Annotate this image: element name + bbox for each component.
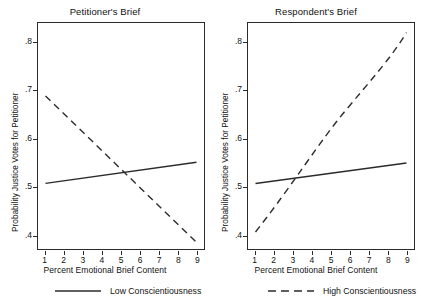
x-tick-label: 4 (95, 255, 109, 265)
legend-label: Low Conscientiousness (110, 286, 201, 296)
y-axis-title: Probability Justice Votes for Petitioner (221, 93, 230, 232)
x-tick-label: 6 (343, 255, 357, 265)
x-tick-label: 7 (362, 255, 376, 265)
plot-lines (248, 23, 414, 249)
series-line-high-conscientiousness (256, 33, 407, 232)
y-axis-title: Probability Justice Votes for Petitioner (11, 93, 20, 232)
x-tick-label: 3 (76, 255, 90, 265)
x-axis-title: Percent Emotional Brief Content (211, 265, 421, 275)
x-tick-label: 5 (324, 255, 338, 265)
y-tick-label: .8 (218, 37, 242, 46)
y-tick-label: .4 (8, 231, 32, 240)
x-tick-label: 1 (248, 255, 262, 265)
legend-key-solid-line (55, 286, 101, 296)
legend-entry-low-conscientiousness: Low Conscientiousness (55, 281, 201, 301)
x-tick-label: 7 (152, 255, 166, 265)
legend-entry-high-conscientiousness: High Conscientiousness (268, 281, 416, 301)
x-tick-label: 2 (267, 255, 281, 265)
series-line-high-conscientiousness (46, 96, 197, 242)
x-tick-label: 6 (133, 255, 147, 265)
y-tick-label: .4 (218, 231, 242, 240)
y-tick-label: .8 (8, 37, 32, 46)
x-tick-label: 1 (38, 255, 52, 265)
x-tick-label: 3 (286, 255, 300, 265)
x-tick-label: 4 (305, 255, 319, 265)
panel-respondents-brief: Respondent's Brief .8 .7 .6 .5 .4 Probab… (211, 0, 421, 275)
x-tick-label: 9 (190, 255, 204, 265)
series-line-low-conscientiousness (256, 163, 407, 184)
panel-petitioners-brief: Petitioner's Brief .8 .7 .6 .5 .4 Probab… (0, 0, 210, 275)
panel-title: Petitioner's Brief (0, 6, 210, 18)
figure-two-panel-chart: Petitioner's Brief .8 .7 .6 .5 .4 Probab… (0, 0, 421, 307)
series-line-low-conscientiousness (46, 162, 197, 183)
plot-lines (38, 23, 204, 249)
x-axis-title: Percent Emotional Brief Content (0, 265, 210, 275)
panel-title: Respondent's Brief (211, 6, 421, 18)
x-tick-label: 5 (114, 255, 128, 265)
plot-area (247, 22, 415, 250)
x-tick-label: 2 (57, 255, 71, 265)
x-tick-label: 8 (171, 255, 185, 265)
plot-area (37, 22, 205, 250)
legend-label: High Conscientiousness (323, 286, 416, 296)
x-tick-label: 8 (381, 255, 395, 265)
x-tick-label: 9 (400, 255, 414, 265)
legend-key-dashed-line (268, 286, 314, 296)
